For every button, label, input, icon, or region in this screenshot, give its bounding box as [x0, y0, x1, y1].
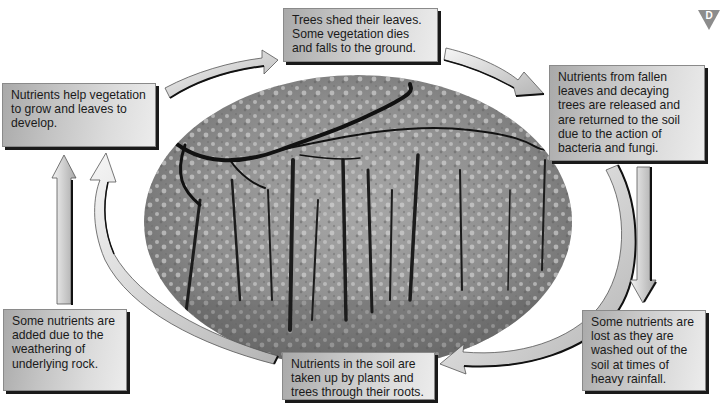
box-root-uptake: Nutrients in the soil are taken up by pl…	[282, 352, 435, 400]
arrow-left-to-top	[165, 50, 278, 98]
badge-letter: D	[697, 10, 721, 21]
box-leaf-fall: Trees shed their leaves. Some vegetation…	[283, 8, 438, 62]
box-leaching-text: Some nutrients are lost as they are wash…	[591, 315, 694, 386]
box-weathering-text: Some nutrients are added due to the weat…	[12, 314, 115, 371]
box-growth-text: Nutrients help vegetation to grow and le…	[11, 88, 146, 130]
box-root-uptake-text: Nutrients in the soil are taken up by pl…	[291, 357, 424, 399]
box-decomposition-text: Nutrients from fallen leaves and decayin…	[558, 70, 680, 155]
box-leaching: Some nutrients are lost as they are wash…	[582, 310, 706, 391]
arrow-weathering-up	[52, 155, 76, 305]
box-decomposition: Nutrients from fallen leaves and decayin…	[549, 65, 705, 161]
box-growth: Nutrients help vegetation to grow and le…	[2, 83, 156, 147]
box-leaf-fall-text: Trees shed their leaves. Some vegetation…	[292, 13, 422, 55]
section-badge: D	[697, 9, 721, 31]
box-weathering: Some nutrients are added due to the weat…	[3, 309, 127, 391]
arrow-top-to-right	[444, 48, 544, 96]
